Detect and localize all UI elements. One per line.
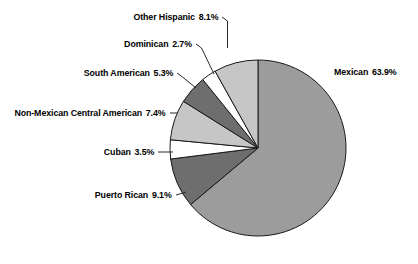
- slice-label-puerto-rican: Puerto Rican9.1%: [95, 189, 172, 200]
- leader-line-other-hispanic: [222, 17, 228, 48]
- slice-label-value-non-mexican-central-american: 7.4%: [146, 107, 166, 118]
- slice-label-value-cuban: 3.5%: [134, 146, 154, 157]
- slice-label-name-puerto-rican: Puerto Rican: [95, 189, 148, 200]
- slice-label-south-american: South American5.3%: [83, 67, 173, 78]
- slice-label-name-non-mexican-central-american: Non-Mexican Central American: [15, 107, 143, 118]
- slice-label-value-mexican: 63.9%: [372, 66, 397, 77]
- slice-label-name-dominican: Dominican: [124, 38, 168, 49]
- slice-label-name-cuban: Cuban: [103, 146, 130, 157]
- slice-label-name-mexican: Mexican: [334, 66, 368, 77]
- slice-label-value-other-hispanic: 8.1%: [198, 11, 218, 22]
- slice-label-dominican: Dominican2.7%: [124, 38, 192, 49]
- leader-line-dominican: [196, 44, 214, 74]
- slice-label-mexican: Mexican63.9%: [334, 66, 397, 77]
- slice-label-name-other-hispanic: Other Hispanic: [133, 11, 195, 22]
- slice-label-other-hispanic: Other Hispanic8.1%: [133, 11, 218, 22]
- slice-label-non-mexican-central-american: Non-Mexican Central American7.4%: [15, 107, 166, 118]
- slice-label-name-south-american: South American: [83, 67, 149, 78]
- slice-label-value-south-american: 5.3%: [153, 67, 173, 78]
- slice-label-value-puerto-rican: 9.1%: [152, 189, 172, 200]
- slice-label-value-dominican: 2.7%: [172, 38, 192, 49]
- pie-chart-canvas: [0, 0, 418, 264]
- leader-line-south-american: [177, 73, 196, 88]
- slice-label-cuban: Cuban3.5%: [103, 146, 154, 157]
- pie-chart: Other Hispanic8.1% Dominican2.7% South A…: [0, 0, 418, 264]
- pie-slices-group: [170, 60, 346, 236]
